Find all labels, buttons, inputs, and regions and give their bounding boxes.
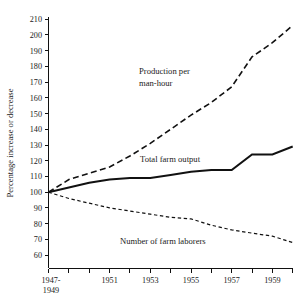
y-tick-label: 70	[34, 235, 42, 244]
x-tick-label: 1959	[264, 276, 280, 285]
y-tick-label: 90	[34, 204, 42, 213]
y-tick-label: 80	[34, 220, 42, 229]
y-tick-label: 150	[30, 110, 42, 119]
series-line-number-of-farm-laborers	[49, 192, 293, 242]
y-tick-label: 180	[30, 62, 42, 71]
y-tick-label: 160	[30, 94, 42, 103]
line-chart: Percentage increase or decrease 210	[0, 0, 301, 299]
y-tick-marks	[45, 19, 49, 255]
x-tick-label: 1955	[183, 276, 199, 285]
x-tick-label-second-line: 1949	[43, 286, 59, 295]
series-line-production-per-man-hour	[49, 26, 293, 193]
y-tick-label: 200	[30, 31, 42, 40]
annotation-number-of-farm-laborers: Number of farm laborers	[120, 236, 206, 246]
annotation-production-per-man-hour-line1: Production per	[139, 66, 190, 76]
chart-figure: Percentage increase or decrease 210	[0, 0, 301, 299]
y-tick-label: 100	[30, 188, 42, 197]
y-tick-label: 140	[30, 125, 42, 134]
y-tick-label: 170	[30, 78, 42, 87]
y-tick-label: 120	[30, 157, 42, 166]
y-tick-label: 130	[30, 141, 42, 150]
x-tick-label: 1957	[224, 276, 240, 285]
y-tick-label: 60	[34, 251, 42, 260]
x-tick-label: 1947-	[41, 276, 60, 285]
x-tick-labels: 1947- 1949 1951 1953 1955 1957 1959	[41, 276, 280, 295]
y-tick-labels: 210 200 190 180 170 160 150 140 130 120 …	[30, 15, 42, 260]
y-tick-label: 110	[30, 172, 42, 181]
annotation-total-farm-output: Total farm output	[140, 154, 201, 164]
x-tick-label: 1953	[142, 276, 158, 285]
x-tick-marks	[49, 269, 293, 273]
y-tick-label: 210	[30, 15, 42, 24]
x-tick-label: 1951	[101, 276, 117, 285]
y-axis-title: Percentage increase or decrease	[5, 88, 15, 197]
annotation-production-per-man-hour-line2: man-hour	[139, 78, 173, 88]
y-tick-label: 190	[30, 47, 42, 56]
